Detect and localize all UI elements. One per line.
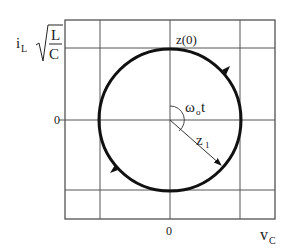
radius-label-main: z — [196, 132, 203, 148]
angle-label: ω o t — [185, 99, 206, 117]
y-axis-label-main: i — [16, 35, 20, 51]
x-axis-label-main: v — [260, 226, 268, 243]
radius-label: z 1 — [196, 132, 210, 150]
x-axis-label-sub: C — [269, 235, 276, 246]
angle-label-suffix: t — [201, 99, 206, 115]
sqrt-numerator: L — [51, 27, 60, 43]
y-zero-label: 0 — [54, 113, 60, 127]
radius-label-sub: 1 — [205, 140, 210, 150]
angle-label-main: ω — [185, 99, 195, 115]
state-plane-diagram: i L L C 0 0 v C z(0) ω o t z 1 — [0, 0, 290, 249]
x-axis-label: v C — [260, 226, 276, 246]
initial-point-label: z(0) — [176, 32, 197, 47]
angle-arc — [170, 106, 184, 131]
y-axis-label: i L L C — [16, 25, 63, 62]
x-zero-label: 0 — [166, 224, 172, 238]
sqrt-denominator: C — [49, 46, 59, 62]
y-axis-label-sub: L — [21, 43, 27, 54]
